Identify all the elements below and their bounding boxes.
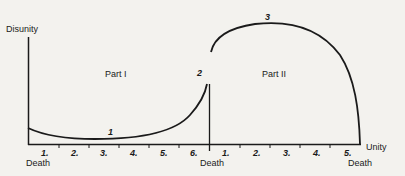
part1-tick-label: 1. xyxy=(41,148,49,158)
part1-curve xyxy=(28,84,207,139)
part2-label: Part II xyxy=(262,69,286,79)
part1-tick-label: 3. xyxy=(100,148,108,158)
part2-tick-label: 3. xyxy=(283,148,291,158)
death-label-end: Death xyxy=(348,158,372,168)
part2-tick-label: 2. xyxy=(253,148,261,158)
part1-tick-label: 2. xyxy=(71,148,79,158)
death-label-middle: Death xyxy=(200,158,224,168)
y-axis-label: Disunity xyxy=(6,24,38,34)
curve-marker-3: 3 xyxy=(265,12,270,22)
part2-tick-label: 1. xyxy=(222,148,230,158)
part2-tick-label: 4. xyxy=(313,148,321,158)
part1-tick-label: 6. xyxy=(190,148,198,158)
curve-marker-2: 2 xyxy=(197,68,202,78)
part1-tick-label: 4. xyxy=(130,148,138,158)
death-label-start: Death xyxy=(26,158,50,168)
x-axis-end-label: Unity xyxy=(366,142,387,152)
part2-tick-label: 5. xyxy=(344,148,352,158)
part1-label: Part I xyxy=(105,69,127,79)
part1-tick-label: 5. xyxy=(160,148,168,158)
curve-marker-1: 1 xyxy=(108,127,113,137)
part2-curve xyxy=(211,23,360,144)
